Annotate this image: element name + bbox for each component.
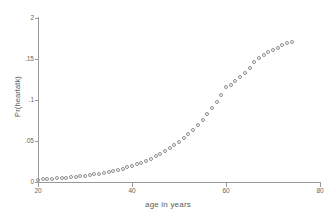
y-axis-spine bbox=[38, 17, 39, 183]
data-point-marker bbox=[36, 178, 40, 182]
data-point-marker bbox=[201, 118, 205, 122]
y-tick-label: 0 bbox=[12, 178, 34, 185]
data-point-marker bbox=[271, 48, 275, 52]
x-tick-label: 80 bbox=[308, 187, 332, 195]
data-point-marker bbox=[107, 170, 111, 174]
data-point-marker bbox=[130, 164, 134, 168]
data-point-marker bbox=[177, 140, 181, 144]
x-axis-label: age in years bbox=[0, 200, 336, 209]
data-point-marker bbox=[88, 173, 92, 177]
y-tick-mark bbox=[35, 59, 38, 60]
data-point-marker bbox=[182, 136, 186, 140]
y-tick-label: 2 bbox=[12, 14, 34, 21]
data-point-marker bbox=[196, 123, 200, 127]
data-point-marker bbox=[191, 128, 195, 132]
x-tick-label: 40 bbox=[120, 187, 144, 195]
data-point-marker bbox=[102, 171, 106, 175]
data-point-marker bbox=[262, 53, 266, 57]
y-tick-label-wrap: 2 bbox=[8, 14, 34, 22]
data-point-marker bbox=[83, 174, 87, 178]
data-point-marker bbox=[243, 71, 247, 75]
data-point-marker bbox=[215, 100, 219, 104]
x-tick-label: 20 bbox=[26, 187, 50, 195]
data-point-marker bbox=[149, 157, 153, 161]
data-point-marker bbox=[116, 168, 120, 172]
y-tick-mark bbox=[35, 100, 38, 101]
y-axis-label: Pr(heartatk) bbox=[13, 42, 22, 152]
scatter-chart-figure: 0.05.1.152 20406080 age in years Pr(hear… bbox=[0, 0, 336, 224]
data-point-marker bbox=[121, 167, 125, 171]
data-point-marker bbox=[229, 83, 233, 87]
data-point-marker bbox=[290, 40, 294, 44]
data-point-marker bbox=[248, 66, 252, 70]
data-point-marker bbox=[41, 177, 45, 181]
y-tick-mark bbox=[35, 18, 38, 19]
data-point-marker bbox=[97, 172, 101, 176]
data-point-marker bbox=[60, 176, 64, 180]
data-point-marker bbox=[276, 46, 280, 50]
plot-area bbox=[38, 18, 320, 182]
data-point-marker bbox=[64, 176, 68, 180]
data-point-marker bbox=[210, 106, 214, 110]
data-point-marker bbox=[50, 177, 54, 181]
y-tick-mark bbox=[35, 141, 38, 142]
x-axis-spine bbox=[38, 182, 321, 183]
y-tick-label-wrap: 0 bbox=[8, 178, 34, 186]
x-tick-label: 60 bbox=[214, 187, 238, 195]
data-point-marker bbox=[144, 159, 148, 163]
data-point-marker bbox=[219, 93, 223, 97]
data-point-marker bbox=[74, 175, 78, 179]
